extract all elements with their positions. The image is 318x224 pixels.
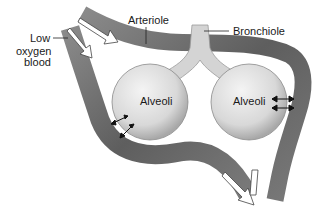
- label-arteriole: Arteriole: [128, 14, 169, 26]
- label-bronchiole: Bronchiole: [233, 25, 285, 37]
- label-alveoli-right: Alveoli: [233, 95, 265, 107]
- alveoli-gas-exchange-diagram: Low oxygen blood Arteriole Bronchiole Al…: [0, 0, 318, 224]
- label-low-oxygen-1: Low: [30, 32, 50, 44]
- label-alveoli-left: Alveoli: [140, 95, 172, 107]
- label-low-oxygen-3: blood: [24, 56, 51, 68]
